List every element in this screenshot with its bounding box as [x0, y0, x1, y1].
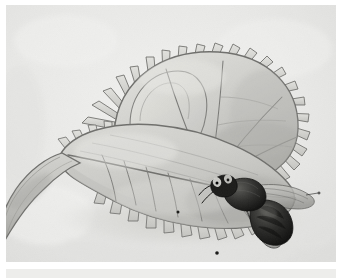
- part-fly-legs-label: Fly legs: [0, 0, 1, 1]
- image-secondary-subject: House fly on trap margin: [0, 0, 1, 1]
- caption-text: [6, 269, 7, 270]
- part-petiole-label: Petiole / leaf stalk: [0, 0, 1, 1]
- image-medium: Pencil and wash botanical illustration: [0, 0, 1, 1]
- part-fly-head-label: Fly head and compound eyes: [0, 0, 1, 1]
- venus-flytrap-illustration: [6, 5, 336, 262]
- caption-band: [6, 269, 336, 278]
- screenshot-root: Venus Flytrap With Captured Fly Venus fl…: [0, 0, 342, 278]
- part-fly-abdomen-label: Fly abdomen: [0, 0, 1, 1]
- part-fly-antenna-label: Fly antenna: [0, 0, 1, 1]
- part-midrib-label: Midrib hinge: [0, 0, 1, 1]
- image-subject: Venus flytrap trap lobe: [0, 0, 1, 1]
- part-cilia-label: Marginal cilia (teeth): [0, 0, 1, 1]
- part-fly-wings-label: Fly wings: [0, 0, 1, 1]
- image-title: Venus Flytrap With Captured Fly: [0, 0, 1, 1]
- paper-grain-overlay: [6, 5, 336, 262]
- illustration-frame: [6, 5, 336, 262]
- part-upper-lobe-label: Upper trap lobe: [0, 0, 1, 1]
- image-palette: grayscale: [0, 0, 1, 1]
- part-fly-thorax-label: Fly thorax: [0, 0, 1, 1]
- part-lower-lobe-label: Lower trap lobe: [0, 0, 1, 1]
